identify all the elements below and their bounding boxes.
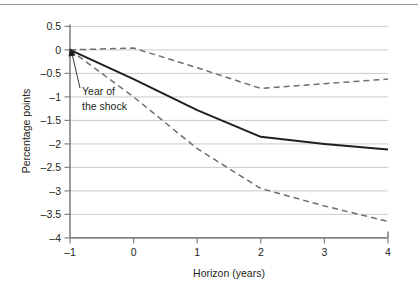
y-axis-title: Percentage points [20,89,32,174]
line-chart: 0.5 0 –0.5 –1 –1.5 –2 –2.5 –3 –3.5 –4 –1… [0,0,418,285]
y-tick-labels: 0.5 0 –0.5 –1 –1.5 –2 –2.5 –3 –3.5 –4 [41,20,62,244]
gridlines-y [70,26,388,214]
x-tick-label: 1 [194,246,200,258]
annotation-line-2: the shock [82,100,128,112]
y-tick-label: –2.5 [41,161,62,173]
y-tick-label: –0.5 [41,67,62,79]
x-tick-label: 4 [385,246,391,258]
y-tick-label: 0 [55,44,61,56]
x-tick-label: 2 [258,246,264,258]
x-tick-labels: –1 0 1 2 3 4 [64,246,391,258]
x-tick-marks [70,238,388,244]
annotation-year-of-the-shock: Year of the shock [82,85,128,112]
x-tick-label: 3 [321,246,327,258]
chart-figure: 0.5 0 –0.5 –1 –1.5 –2 –2.5 –3 –3.5 –4 –1… [0,0,418,285]
x-tick-label: –1 [64,246,76,258]
y-tick-label: –3.5 [41,208,62,220]
y-tick-label: –2 [49,138,61,150]
y-tick-label: –1 [49,91,61,103]
annotation-line-1: Year of [82,85,115,97]
y-tick-label: –3 [49,185,61,197]
x-axis-title: Horizon (years) [193,267,265,279]
x-tick-label: 0 [131,246,137,258]
y-tick-label: 0.5 [46,20,61,32]
series-lower-confidence-band [70,50,388,222]
y-tick-label: –4 [49,232,61,244]
y-tick-marks [65,26,71,238]
series-upper-confidence-band [70,48,388,88]
y-tick-label: –1.5 [41,114,62,126]
